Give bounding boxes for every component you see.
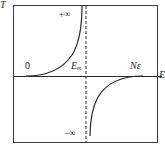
y-axis-label: T bbox=[0, 0, 6, 10]
e-m-label: Em bbox=[71, 61, 81, 71]
plus-infinity-label: +∞ bbox=[59, 10, 71, 19]
minus-infinity-label: −∞ bbox=[64, 129, 76, 138]
e-m-subscript: m bbox=[77, 65, 81, 71]
temperature-energy-diagram bbox=[0, 0, 165, 148]
origin-label: 0 bbox=[25, 61, 30, 71]
negative-temperature-curve bbox=[90, 76, 143, 136]
n-epsilon-label: Nε bbox=[130, 61, 141, 71]
x-axis-label: E bbox=[159, 70, 165, 80]
